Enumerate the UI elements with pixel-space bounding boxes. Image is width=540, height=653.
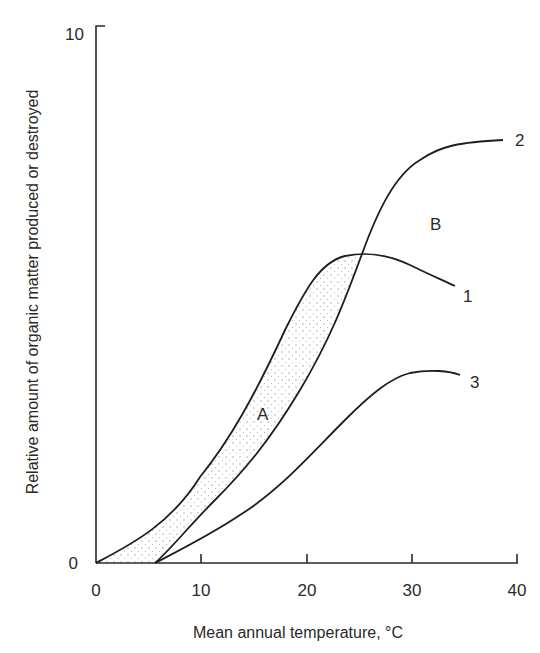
curve-3 bbox=[155, 371, 460, 563]
y-tick-label-0: 0 bbox=[69, 554, 78, 573]
curve-2-label: 2 bbox=[515, 131, 524, 150]
curve-3-label: 3 bbox=[470, 373, 479, 392]
x-tick-label-20: 20 bbox=[298, 581, 317, 600]
x-axis-title: Mean annual temperature, °C bbox=[193, 624, 403, 641]
x-tick-label-30: 30 bbox=[403, 581, 422, 600]
y-tick-label-10: 10 bbox=[65, 25, 84, 44]
x-tick-label-40: 40 bbox=[508, 581, 527, 600]
region-b-label: B bbox=[430, 215, 441, 234]
y-axis bbox=[96, 26, 105, 563]
x-tick-label-0: 0 bbox=[91, 581, 100, 600]
x-ticks bbox=[201, 554, 517, 563]
chart: 0 10 20 30 40 0 10 Mean annual temperatu… bbox=[0, 0, 540, 653]
curve-1-label: 1 bbox=[463, 287, 472, 306]
x-tick-label-10: 10 bbox=[192, 581, 211, 600]
y-axis-title: Relative amount of organic matter produc… bbox=[24, 90, 41, 495]
region-a-fill bbox=[96, 254, 362, 563]
region-a-label: A bbox=[257, 405, 269, 424]
